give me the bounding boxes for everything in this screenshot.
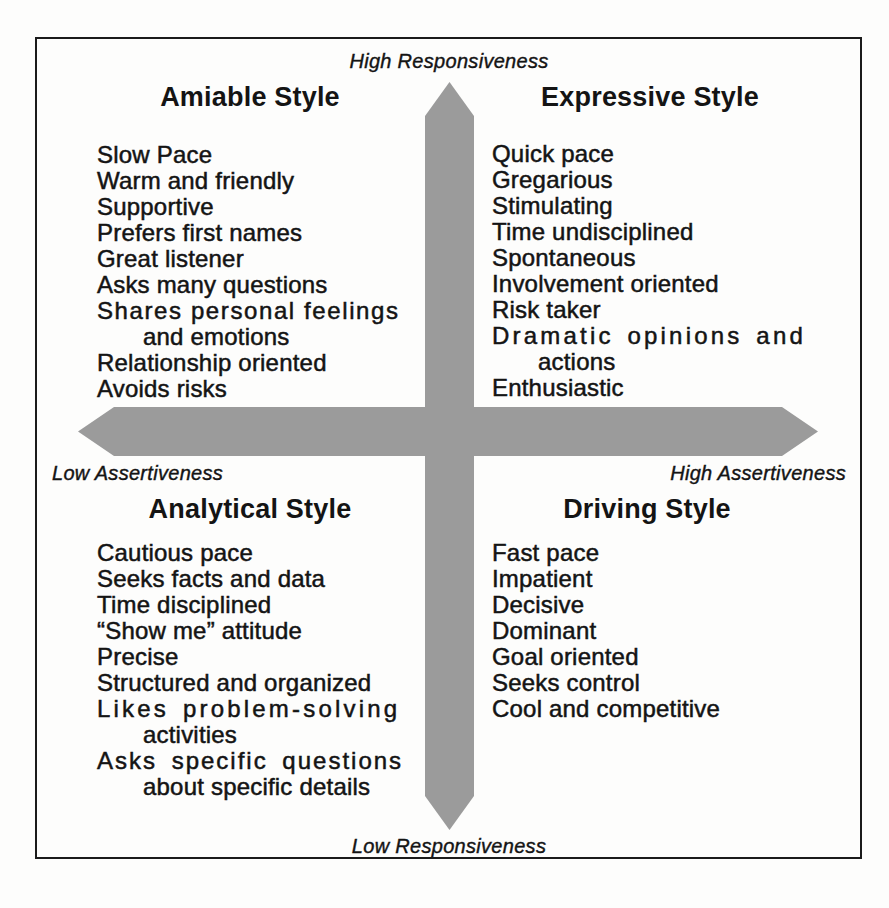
responsiveness-axis-arrow: [425, 82, 474, 830]
trait-item: Seeks control: [492, 670, 720, 696]
trait-item: Great listener: [97, 246, 400, 272]
trait-item: Enthusiastic: [492, 375, 806, 401]
trait-item: Seeks facts and data: [97, 566, 403, 592]
trait-item: Cautious pace: [97, 540, 403, 566]
trait-item: Supportive: [97, 194, 400, 220]
trait-item-continuation: actions: [492, 349, 806, 375]
quadrant-title-expressive: Expressive Style: [541, 82, 759, 113]
trait-item: Prefers first names: [97, 220, 400, 246]
trait-list-driving: Fast pace Impatient Decisive Dominant Go…: [492, 540, 720, 722]
trait-item: Likes problem-solving: [97, 696, 403, 722]
trait-list-expressive: Quick pace Gregarious Stimulating Time u…: [492, 141, 806, 401]
axis-label-low-assertiveness: Low Assertiveness: [52, 462, 223, 485]
trait-item: Gregarious: [492, 167, 806, 193]
trait-item: Risk taker: [492, 297, 806, 323]
quadrant-title-driving: Driving Style: [563, 494, 731, 525]
trait-item: Decisive: [492, 592, 720, 618]
axis-label-low-responsiveness: Low Responsiveness: [352, 835, 546, 858]
axis-label-high-assertiveness: High Assertiveness: [670, 462, 846, 485]
trait-item: “Show me” attitude: [97, 618, 403, 644]
trait-item: Time disciplined: [97, 592, 403, 618]
trait-list-amiable: Slow Pace Warm and friendly Supportive P…: [97, 142, 400, 402]
trait-item: Dominant: [492, 618, 720, 644]
trait-item-continuation: activities: [97, 722, 403, 748]
trait-item: Impatient: [492, 566, 720, 592]
trait-item: Goal oriented: [492, 644, 720, 670]
trait-item: Asks specific questions: [97, 748, 403, 774]
social-styles-diagram: High Responsiveness Low Responsiveness L…: [0, 0, 889, 908]
trait-item-continuation: and emotions: [97, 324, 400, 350]
trait-item: Avoids risks: [97, 376, 400, 402]
trait-item: Stimulating: [492, 193, 806, 219]
trait-item: Quick pace: [492, 141, 806, 167]
quadrant-title-amiable: Amiable Style: [160, 82, 340, 113]
trait-item: Relationship oriented: [97, 350, 400, 376]
trait-item-continuation: about specific details: [97, 774, 403, 800]
quadrant-title-analytical: Analytical Style: [149, 494, 352, 525]
trait-item: Warm and friendly: [97, 168, 400, 194]
trait-item: Structured and organized: [97, 670, 403, 696]
trait-item: Slow Pace: [97, 142, 400, 168]
trait-item: Shares personal feelings: [97, 298, 400, 324]
trait-list-analytical: Cautious pace Seeks facts and data Time …: [97, 540, 403, 800]
trait-item: Dramatic opinions and: [492, 323, 806, 349]
trait-item: Involvement oriented: [492, 271, 806, 297]
trait-item: Time undisciplined: [492, 219, 806, 245]
trait-item: Cool and competitive: [492, 696, 720, 722]
trait-item: Spontaneous: [492, 245, 806, 271]
trait-item: Asks many questions: [97, 272, 400, 298]
trait-item: Precise: [97, 644, 403, 670]
axis-label-high-responsiveness: High Responsiveness: [349, 50, 548, 73]
trait-item: Fast pace: [492, 540, 720, 566]
